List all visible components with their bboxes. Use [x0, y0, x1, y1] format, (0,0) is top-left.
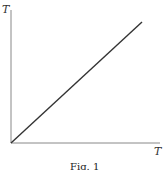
y-axis-label: T: [2, 4, 9, 15]
data-line: [11, 22, 142, 143]
chart-figure: [0, 0, 167, 170]
x-axis-label: T: [154, 146, 161, 157]
figure-caption: Fig. 1: [70, 162, 99, 170]
